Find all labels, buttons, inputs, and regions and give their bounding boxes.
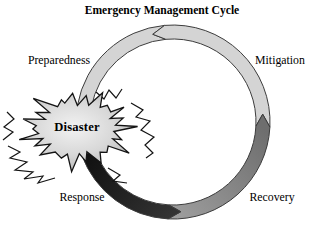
label-preparedness: Preparedness [28, 53, 91, 67]
emergency-cycle-diagram: Emergency Management Cycle Preparedness … [0, 0, 318, 233]
label-mitigation: Mitigation [255, 53, 305, 67]
mitigation-arrow-segment [153, 25, 270, 127]
shock-line-3 [131, 103, 154, 158]
response-arrow-segment [82, 150, 181, 219]
label-recovery: Recovery [249, 190, 294, 204]
label-response: Response [59, 190, 104, 204]
shock-line-2 [3, 112, 14, 140]
diagram-canvas: Emergency Management Cycle Preparedness … [0, 0, 318, 233]
label-disaster: Disaster [54, 120, 100, 134]
diagram-title: Emergency Management Cycle [85, 4, 240, 17]
preparedness-arrow-segment [78, 25, 166, 107]
